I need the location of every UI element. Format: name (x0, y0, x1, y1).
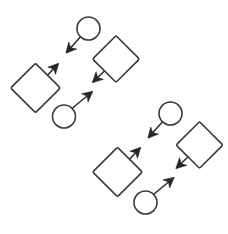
node-circle-bottom (53, 105, 76, 128)
node-circle-top (77, 17, 100, 40)
node-circle-top (159, 102, 182, 125)
diagram-svg (0, 0, 228, 234)
diagram-canvas (0, 0, 228, 234)
diagram-background (0, 0, 228, 234)
node-circle-bottom (134, 191, 157, 214)
